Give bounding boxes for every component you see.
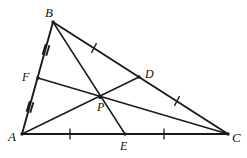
segment-CF bbox=[38, 78, 228, 134]
tick-marks-group bbox=[27, 43, 180, 139]
medians-group bbox=[22, 22, 228, 134]
vertex-label-C: C bbox=[232, 131, 241, 144]
point-dot-B bbox=[51, 20, 54, 23]
vertex-label-B: B bbox=[45, 6, 53, 19]
point-label-P: P bbox=[97, 101, 104, 113]
geometry-canvas bbox=[0, 0, 247, 158]
point-dot-D bbox=[137, 75, 140, 78]
point-dot-E bbox=[123, 132, 126, 135]
segment-AD bbox=[22, 77, 139, 134]
point-dot-A bbox=[20, 132, 23, 135]
geometry-figure: A B C D E F P bbox=[0, 0, 247, 158]
segment-BC bbox=[53, 22, 228, 134]
point-dot-P bbox=[98, 95, 102, 99]
point-label-E: E bbox=[120, 140, 127, 152]
point-label-D: D bbox=[145, 68, 154, 80]
point-dots-group bbox=[20, 20, 229, 135]
point-dot-F bbox=[36, 76, 39, 79]
point-dot-C bbox=[226, 132, 229, 135]
point-label-F: F bbox=[22, 71, 29, 83]
triangle-sides-group bbox=[22, 22, 228, 134]
vertex-label-A: A bbox=[8, 130, 16, 143]
segment-BE bbox=[53, 22, 125, 134]
